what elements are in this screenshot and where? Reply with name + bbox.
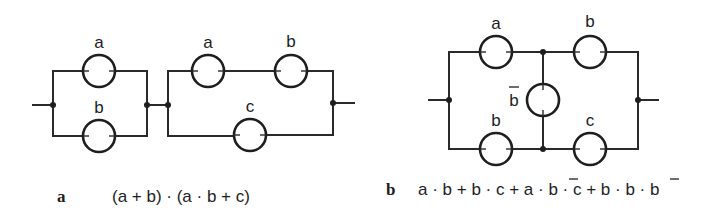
switch-b-contact-2 xyxy=(275,55,307,87)
formula-b: a · b + b · c + a · b · c + b · b · b xyxy=(418,180,659,199)
switch-c-contact xyxy=(574,133,606,165)
switch-a-contact-2 xyxy=(192,55,224,87)
junction-node xyxy=(446,97,452,103)
wire-left-rail xyxy=(449,52,480,149)
label-b: b xyxy=(491,111,500,130)
junction-node xyxy=(165,102,171,108)
formula-a: (a + b) · (a · b + c) xyxy=(112,187,250,206)
switch-c-contact xyxy=(234,119,266,151)
circuit-diagrams: a b a b c a (a + b) · (a · b + c) xyxy=(0,0,713,218)
junction-node xyxy=(635,97,641,103)
label-b: b xyxy=(286,32,295,51)
label-a: a xyxy=(491,14,501,33)
label-a: a xyxy=(94,33,104,52)
switch-b-bar-contact xyxy=(527,84,559,116)
diagram-a: a b a b c a (a + b) · (a · b + c) xyxy=(32,32,355,206)
switch-b-contact xyxy=(83,120,115,152)
junction-node xyxy=(540,49,546,55)
caption-letter-a: a xyxy=(57,187,66,206)
wire-left-block-left xyxy=(53,71,83,136)
diagram-b: a b b b c b a · b + b · c + a · b · c + … xyxy=(386,12,679,199)
junction-node xyxy=(330,100,336,106)
junction-node xyxy=(540,146,546,152)
junction-node xyxy=(50,102,56,108)
label-b: b xyxy=(94,98,103,117)
wire-left-block-right xyxy=(115,71,147,136)
label-a: a xyxy=(203,33,213,52)
switch-b-contact-bottom xyxy=(480,133,512,165)
junction-node xyxy=(144,102,150,108)
label-b: b xyxy=(585,12,594,31)
switch-a-contact xyxy=(480,36,512,68)
wire-right-rail xyxy=(606,52,638,149)
label-c: c xyxy=(586,111,595,130)
label-c: c xyxy=(246,97,255,116)
b-negated: b xyxy=(548,180,557,199)
b-negated: b xyxy=(625,180,634,199)
label-b-bar: b xyxy=(509,91,518,110)
caption-letter-b: b xyxy=(386,180,395,199)
switch-a-contact xyxy=(83,55,115,87)
switch-b-contact xyxy=(574,36,606,68)
